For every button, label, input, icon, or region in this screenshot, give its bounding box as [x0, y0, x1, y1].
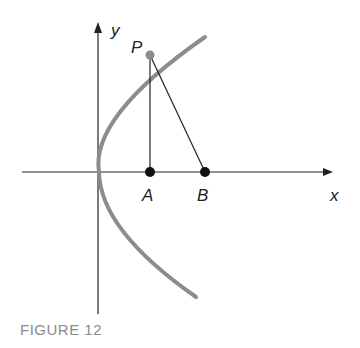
segment-pb: [150, 55, 205, 172]
y-axis-arrow-icon: [94, 22, 102, 33]
point-b: [200, 167, 210, 177]
point-b-label: B: [197, 186, 208, 206]
y-axis-label: y: [111, 21, 120, 41]
point-a: [145, 167, 155, 177]
parabola-diagram: [0, 0, 360, 348]
point-a-label: A: [142, 186, 153, 206]
x-axis-arrow-icon: [323, 168, 333, 176]
parabola-curve: [98, 37, 205, 297]
point-p-label: P: [131, 38, 142, 58]
point-p: [146, 51, 155, 60]
figure-caption: FIGURE 12: [20, 321, 102, 338]
x-axis-label: x: [330, 186, 339, 206]
